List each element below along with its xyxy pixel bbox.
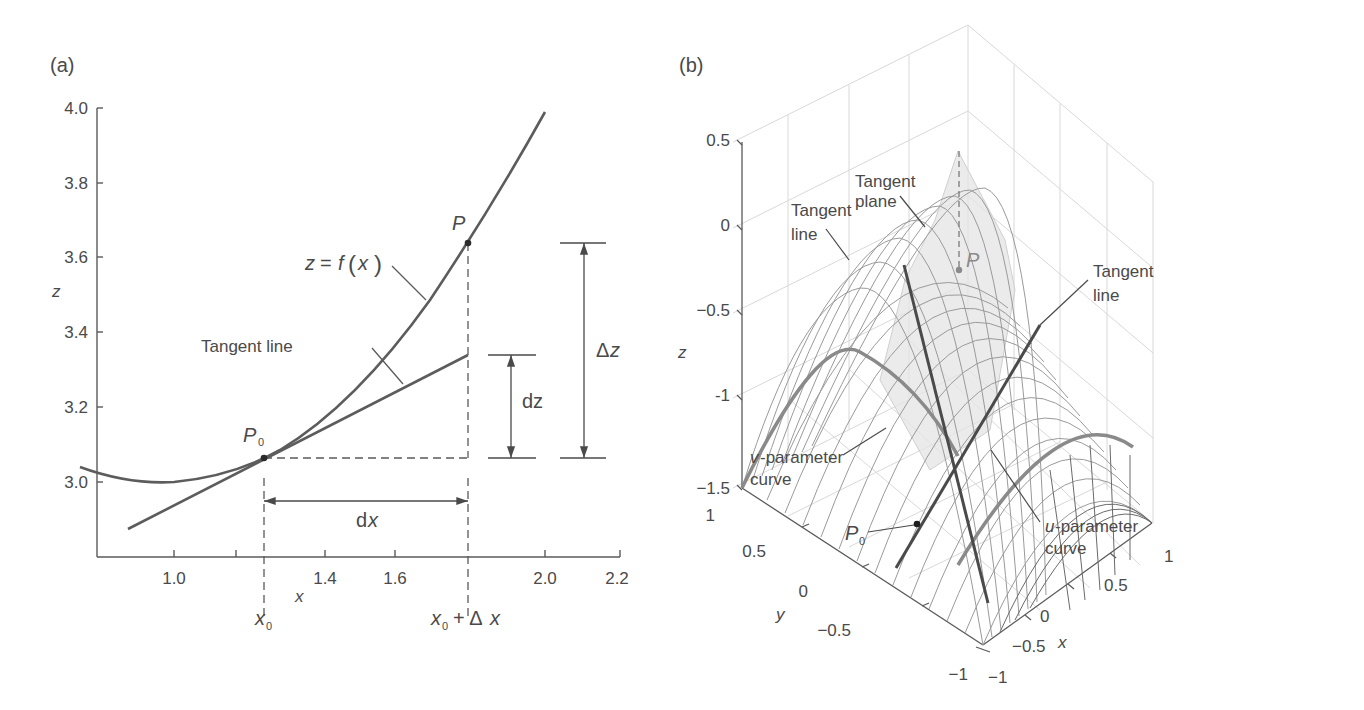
panel-b-z-axis <box>737 140 742 490</box>
svg-text:x: x <box>430 607 442 629</box>
panel-b-x-axis-label: x <box>1057 633 1067 652</box>
p0-label-3d: P <box>845 522 859 544</box>
panel-b-y-tick-labels: 1 0.5 0 −0.5 −1 <box>706 506 968 684</box>
svg-text:(: ( <box>348 250 356 277</box>
tangent-plane-label-2: plane <box>855 192 897 211</box>
svg-text:x: x <box>357 252 369 274</box>
p0-subscript: 0 <box>258 436 264 448</box>
svg-text:curve: curve <box>1045 539 1087 558</box>
z-axis-label: z <box>51 282 61 301</box>
panel-a: (a) 3.0 3.2 3.4 3.6 3.8 4 <box>50 54 629 632</box>
x-tick: 0 <box>1040 607 1049 626</box>
x-tick: −0.5 <box>1012 637 1046 656</box>
x-tick: 1.0 <box>162 569 186 588</box>
y-tick: 0 <box>799 582 808 601</box>
svg-text:-parameter: -parameter <box>1055 517 1138 536</box>
panel-a-x-tick-labels: 1.0 1.4 1.6 2.0 2.2 <box>162 569 629 588</box>
svg-text:0: 0 <box>442 620 448 632</box>
y-tick: −1 <box>949 665 968 684</box>
point-p-3d <box>956 267 962 273</box>
point-p0-3d <box>914 521 921 528</box>
svg-text:f: f <box>338 252 346 274</box>
z-tick: −0.5 <box>696 301 730 320</box>
panel-a-label: (a) <box>50 54 74 76</box>
panel-a-z-tick-labels: 3.0 3.2 3.4 3.6 3.8 4.0 <box>64 99 88 492</box>
p0-subscript-3d: 0 <box>859 535 865 547</box>
delta-z-label: Δ z <box>596 339 620 361</box>
p0-label: P <box>243 424 257 446</box>
tangent-line-label: Tangent line <box>201 337 293 356</box>
panel-b-x-tick-labels: −1 −0.5 0 0.5 1 <box>988 547 1173 687</box>
z-tick: 3.4 <box>64 323 88 342</box>
z-tick: 3.6 <box>64 248 88 267</box>
svg-text:0: 0 <box>266 620 272 632</box>
y-tick: 1 <box>706 506 715 525</box>
y-tick: −0.5 <box>817 621 851 640</box>
x-tick: 1.6 <box>383 569 407 588</box>
x-tick: 1 <box>1164 547 1173 566</box>
panel-b-label: (b) <box>679 54 703 76</box>
z-tick: -1 <box>715 386 730 405</box>
x-tick: 1.4 <box>313 569 337 588</box>
x0-label: x 0 <box>254 607 272 632</box>
panel-b-z-tick-labels: 0.5 0 −0.5 -1 −1.5 <box>696 131 730 498</box>
svg-text:z: z <box>609 339 620 361</box>
tangent-line-left-label-2: line <box>791 225 817 244</box>
tangent-line-left-leader <box>826 229 849 260</box>
x-tick: −1 <box>988 668 1007 687</box>
tangent-plane <box>880 151 1015 470</box>
svg-text:x: x <box>254 607 266 629</box>
p-label-3d: P <box>966 249 980 271</box>
u-curve-label: u -parameter curve <box>1045 517 1138 558</box>
tangent-line-right-leader <box>1040 280 1088 325</box>
function-curve <box>80 112 545 482</box>
x-tick: 0.5 <box>1104 576 1128 595</box>
panel-b-y-axis-label: y <box>775 605 786 624</box>
z-tick: 0.5 <box>706 131 730 150</box>
dx-label: d x <box>356 509 379 531</box>
svg-text:x: x <box>367 509 379 531</box>
svg-text:-parameter: -parameter <box>760 448 843 467</box>
tangent-line-right-label-2: line <box>1093 286 1119 305</box>
tangent-plane-label-1: Tangent <box>855 172 916 191</box>
z-tick: 3.2 <box>64 398 88 417</box>
svg-text:+ Δ: + Δ <box>453 607 483 629</box>
z-tick: −1.5 <box>696 479 730 498</box>
v-curve-leader <box>843 428 886 455</box>
svg-text:): ) <box>374 250 382 277</box>
panel-b: (b) <box>677 25 1173 687</box>
svg-text:d: d <box>356 509 367 531</box>
z-tick: 4.0 <box>64 99 88 118</box>
y-tick: 0.5 <box>742 542 766 561</box>
panel-a-axes <box>97 108 620 557</box>
curve-label-leader <box>392 266 426 300</box>
panel-b-floor-axes <box>742 488 1152 652</box>
svg-text:x: x <box>489 607 501 629</box>
x0-plus-dx-label: x 0 + Δ x <box>430 607 501 632</box>
x-axis-label: x <box>294 587 304 606</box>
z-tick: 0 <box>721 216 730 235</box>
z-tick: 3.8 <box>64 174 88 193</box>
tangent-line-right-label-1: Tangent <box>1093 262 1154 281</box>
dashed-guides <box>264 243 468 620</box>
curve-label: z = f ( x ) <box>304 250 382 277</box>
point-p <box>465 240 472 247</box>
point-p0 <box>261 455 268 462</box>
panel-b-z-axis-label: z <box>677 343 687 362</box>
x-tick: 2.0 <box>533 569 557 588</box>
tangent-line-left-label-1: Tangent <box>791 201 852 220</box>
x-tick: 2.2 <box>605 569 629 588</box>
svg-text:u: u <box>1045 517 1055 536</box>
svg-text:=: = <box>320 252 332 274</box>
dz-label: dz <box>522 390 543 412</box>
svg-text:Δ: Δ <box>596 339 609 361</box>
svg-text:curve: curve <box>750 470 792 489</box>
figure-canvas: (a) 3.0 3.2 3.4 3.6 3.8 4 <box>0 0 1364 710</box>
p-label: P <box>452 212 466 234</box>
svg-text:z: z <box>304 252 315 274</box>
z-tick: 3.0 <box>64 473 88 492</box>
tangent-line <box>128 355 468 529</box>
